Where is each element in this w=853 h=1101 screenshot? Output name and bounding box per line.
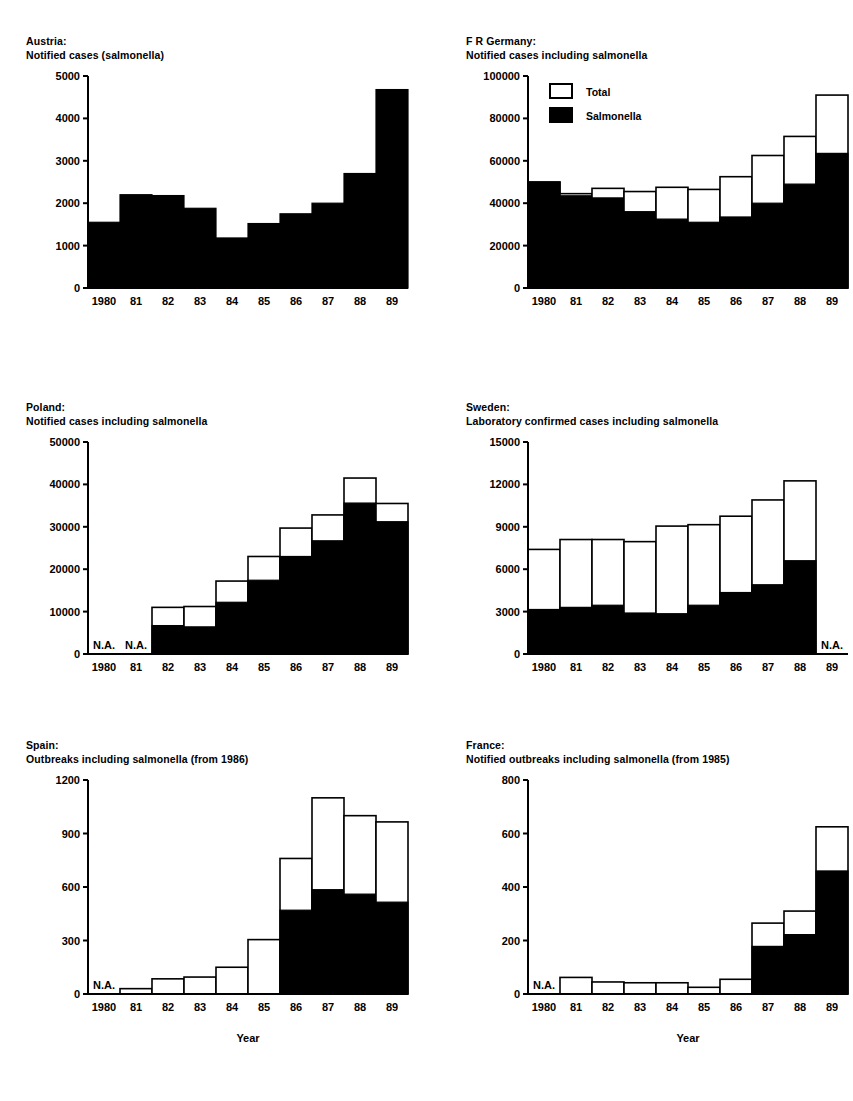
x-tick-label: 86 xyxy=(290,661,302,673)
y-tick-label: 20000 xyxy=(489,240,520,252)
x-tick-label: 1980 xyxy=(92,295,116,307)
x-tick-label: 82 xyxy=(602,1001,614,1013)
y-tick-label: 4000 xyxy=(56,112,80,124)
y-tick-label: 1000 xyxy=(56,240,80,252)
x-tick-label: 1980 xyxy=(532,661,556,673)
panel-title-poland: Poland: Notified cases including salmone… xyxy=(26,400,426,428)
chart-svg-poland: 0100002000030000400005000019808182838485… xyxy=(26,428,426,688)
panel-title-fr-germany: F R Germany: Notified cases including sa… xyxy=(466,34,853,62)
x-tick-label: 88 xyxy=(794,661,806,673)
y-tick-label: 20000 xyxy=(49,563,80,575)
y-tick-label: 5000 xyxy=(56,70,80,82)
panel-title-france: France: Notified outbreaks including sal… xyxy=(466,738,853,766)
chart-svg-austria: 0100020003000400050001980818283848586878… xyxy=(26,62,426,322)
plot-fr-germany: 0200004000060000800001000001980818283848… xyxy=(466,62,853,322)
x-tick-label: 84 xyxy=(666,1001,679,1013)
na-label: N.A. xyxy=(533,979,555,991)
y-tick-label: 9000 xyxy=(496,521,520,533)
panel-title-spain: Spain: Outbreaks including salmonella (f… xyxy=(26,738,426,766)
y-tick-label: 50000 xyxy=(49,436,80,448)
x-tick-label: 89 xyxy=(386,1001,398,1013)
x-tick-label: 86 xyxy=(730,661,742,673)
x-tick-label: 89 xyxy=(386,661,398,673)
y-tick-label: 3000 xyxy=(56,155,80,167)
y-tick-label: 80000 xyxy=(489,112,520,124)
x-tick-label: 85 xyxy=(698,661,710,673)
x-tick-label: 81 xyxy=(130,661,142,673)
x-tick-label: 85 xyxy=(698,1001,710,1013)
chart-svg-fr-germany: 0200004000060000800001000001980818283848… xyxy=(466,62,853,322)
y-tick-label: 30000 xyxy=(49,521,80,533)
y-tick-label: 400 xyxy=(502,881,520,893)
y-tick-label: 0 xyxy=(514,282,520,294)
chart-svg-france: 02004006008001980818283848586878889N.A.Y… xyxy=(466,766,853,1056)
y-tick-label: 15000 xyxy=(489,436,520,448)
panel-title-austria: Austria: Notified cases (salmonella) xyxy=(26,34,426,62)
x-tick-label: 85 xyxy=(258,1001,270,1013)
y-tick-label: 0 xyxy=(514,648,520,660)
y-tick-label: 40000 xyxy=(489,197,520,209)
panel-sweden: Sweden: Laboratory confirmed cases inclu… xyxy=(466,400,853,688)
plot-poland: 0100002000030000400005000019808182838485… xyxy=(26,428,426,688)
chart-svg-spain: 030060090012001980818283848586878889N.A.… xyxy=(26,766,426,1056)
x-tick-label: 87 xyxy=(322,661,334,673)
x-tick-label: 86 xyxy=(730,295,742,307)
x-tick-label: 85 xyxy=(698,295,710,307)
x-tick-label: 88 xyxy=(354,1001,366,1013)
panel-spain: Spain: Outbreaks including salmonella (f… xyxy=(26,738,426,1056)
x-tick-label: 81 xyxy=(570,661,582,673)
y-tick-label: 0 xyxy=(74,648,80,660)
x-tick-label: 81 xyxy=(570,1001,582,1013)
y-tick-label: 3000 xyxy=(496,606,520,618)
x-tick-label: 1980 xyxy=(92,1001,116,1013)
x-tick-label: 86 xyxy=(290,1001,302,1013)
x-tick-label: 83 xyxy=(634,661,646,673)
x-tick-label: 84 xyxy=(226,295,239,307)
x-tick-label: 88 xyxy=(354,295,366,307)
x-tick-label: 1980 xyxy=(532,1001,556,1013)
y-tick-label: 100000 xyxy=(483,70,520,82)
x-tick-label: 84 xyxy=(666,661,679,673)
x-tick-label: 82 xyxy=(162,1001,174,1013)
x-tick-label: 87 xyxy=(322,295,334,307)
x-tick-label: 88 xyxy=(794,1001,806,1013)
plot-france: 02004006008001980818283848586878889N.A.Y… xyxy=(466,766,853,1056)
panel-france: France: Notified outbreaks including sal… xyxy=(466,738,853,1056)
x-tick-label: 87 xyxy=(762,295,774,307)
na-label: N.A. xyxy=(125,639,147,651)
x-tick-label: 84 xyxy=(666,295,679,307)
y-tick-label: 800 xyxy=(502,774,520,786)
panel-poland: Poland: Notified cases including salmone… xyxy=(26,400,426,688)
y-tick-label: 0 xyxy=(514,988,520,1000)
x-tick-label: 89 xyxy=(826,295,838,307)
x-tick-label: 88 xyxy=(794,295,806,307)
y-tick-label: 900 xyxy=(62,828,80,840)
x-tick-label: 86 xyxy=(290,295,302,307)
x-tick-label: 83 xyxy=(194,295,206,307)
x-tick-label: 83 xyxy=(194,1001,206,1013)
y-tick-label: 600 xyxy=(62,881,80,893)
x-tick-label: 81 xyxy=(130,295,142,307)
panel-title-sweden: Sweden: Laboratory confirmed cases inclu… xyxy=(466,400,853,428)
y-tick-label: 6000 xyxy=(496,563,520,575)
x-tick-label: 83 xyxy=(634,295,646,307)
y-tick-label: 12000 xyxy=(489,478,520,490)
x-tick-label: 87 xyxy=(762,661,774,673)
x-tick-label: 81 xyxy=(130,1001,142,1013)
y-tick-label: 200 xyxy=(502,935,520,947)
y-tick-label: 2000 xyxy=(56,197,80,209)
chart-svg-sweden: 0300060009000120001500019808182838485868… xyxy=(466,428,853,688)
x-tick-label: 82 xyxy=(602,661,614,673)
legend-label-total: Total xyxy=(586,86,610,98)
x-tick-label: 1980 xyxy=(92,661,116,673)
x-tick-label: 82 xyxy=(602,295,614,307)
y-tick-label: 0 xyxy=(74,282,80,294)
legend-label-salmonella: Salmonella xyxy=(586,110,642,122)
plot-austria: 0100020003000400050001980818283848586878… xyxy=(26,62,426,322)
x-tick-label: 85 xyxy=(258,295,270,307)
x-tick-label: 89 xyxy=(826,1001,838,1013)
x-tick-label: 82 xyxy=(162,661,174,673)
x-axis-title: Year xyxy=(676,1032,700,1044)
x-tick-label: 82 xyxy=(162,295,174,307)
